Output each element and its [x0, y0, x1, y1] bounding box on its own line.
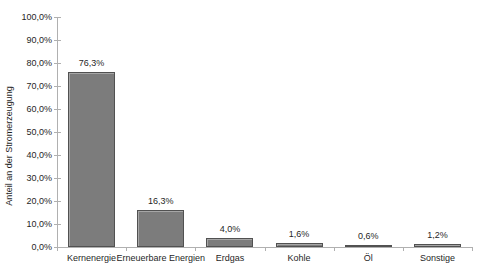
- y-tick: [54, 40, 61, 41]
- category-label: Öl: [364, 252, 373, 264]
- bar-value-label: 4,0%: [198, 224, 262, 235]
- y-tick-label: 90,0%: [8, 35, 52, 45]
- bar: [345, 245, 392, 247]
- y-tick: [54, 17, 61, 18]
- bar-value-label: 1,6%: [267, 229, 331, 240]
- y-tick: [54, 155, 61, 156]
- bar-value-label: 76,3%: [60, 58, 124, 69]
- x-tick: [334, 247, 335, 251]
- category-label: Sonstige: [420, 252, 455, 264]
- category-label: Erneuerbare Energien: [116, 252, 205, 264]
- y-tick: [54, 109, 61, 110]
- x-tick: [265, 247, 266, 251]
- y-tick-label: 30,0%: [8, 173, 52, 183]
- bar: [276, 243, 323, 247]
- x-tick: [57, 247, 58, 251]
- bar: [206, 238, 253, 247]
- bar-value-label: 0,6%: [336, 231, 400, 242]
- y-tick-label: 20,0%: [8, 196, 52, 206]
- y-tick: [54, 224, 61, 225]
- bar: [137, 210, 184, 247]
- y-tick-label: 50,0%: [8, 127, 52, 137]
- y-tick-label: 60,0%: [8, 104, 52, 114]
- x-tick: [126, 247, 127, 251]
- y-tick: [54, 132, 61, 133]
- x-tick: [195, 247, 196, 251]
- x-tick: [403, 247, 404, 251]
- x-tick: [472, 247, 473, 251]
- y-tick-label: 70,0%: [8, 81, 52, 91]
- y-tick-label: 100,0%: [8, 12, 52, 22]
- bar: [414, 244, 461, 247]
- y-tick-label: 80,0%: [8, 58, 52, 68]
- y-tick: [54, 201, 61, 202]
- y-tick-label: 0,0%: [8, 242, 52, 252]
- bar: [68, 72, 115, 247]
- category-label: Erdgas: [216, 252, 245, 264]
- y-tick: [54, 178, 61, 179]
- category-label: Kohle: [288, 252, 311, 264]
- y-tick-label: 40,0%: [8, 150, 52, 160]
- category-label: Kernenergie: [67, 252, 116, 264]
- bar-value-label: 1,2%: [405, 230, 469, 241]
- bar-chart: Anteil an der Stromerzeugung 0,0%10,0%20…: [0, 0, 485, 277]
- y-tick-label: 10,0%: [8, 219, 52, 229]
- bar-value-label: 16,3%: [129, 196, 193, 207]
- y-tick: [54, 86, 61, 87]
